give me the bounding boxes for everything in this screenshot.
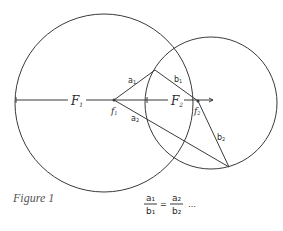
- label-F1: F1: [70, 94, 83, 108]
- point-f1: [113, 99, 116, 102]
- eq-equals: =: [160, 200, 167, 209]
- eq-den2: b₂: [172, 206, 182, 216]
- ray-a2: [114, 100, 229, 167]
- eq-num1: a₁: [146, 193, 156, 203]
- label-b1: b1: [174, 75, 182, 84]
- ratio-equation: a₁ b₁ = a₂ b₂ …: [144, 193, 196, 216]
- figure-caption: Figure 1: [13, 191, 54, 206]
- label-f2: f2: [193, 106, 201, 116]
- label-b2: b2: [217, 133, 225, 142]
- label-a2: a2: [131, 114, 139, 123]
- ray-a1: [114, 70, 155, 100]
- eq-num2: a₂: [172, 193, 182, 203]
- eq-den1: b₁: [146, 206, 156, 216]
- label-F2: F2: [170, 94, 183, 108]
- ray-b2: [198, 101, 229, 167]
- small-circle: [145, 37, 277, 169]
- eq-ellipsis: …: [188, 200, 196, 209]
- label-a1: a1: [128, 76, 136, 85]
- large-circle: [15, 14, 193, 192]
- label-f1: f1: [110, 106, 118, 116]
- point-f2: [197, 100, 200, 103]
